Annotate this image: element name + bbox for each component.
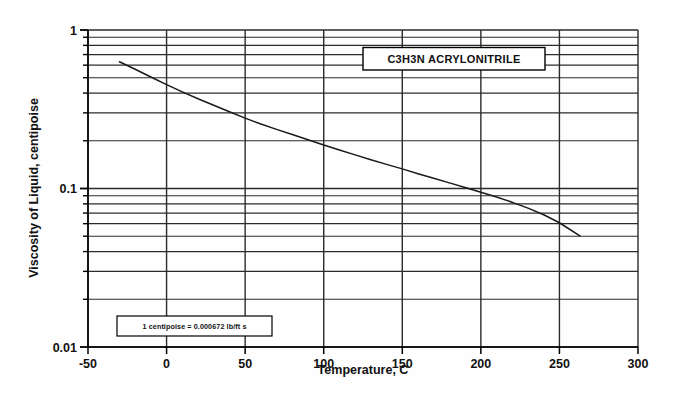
y-tick-label-0.1: 0.1 [60, 182, 77, 196]
note-box: 1 centipoise = 0.000672 lb/ft s [117, 316, 272, 336]
x-tick-label-50: 50 [238, 357, 252, 371]
x-tick-label--50: -50 [79, 357, 97, 371]
title-box: C3H3N ACRYLONITRILE [363, 48, 545, 71]
title-box-label: C3H3N ACRYLONITRILE [387, 53, 520, 65]
x-tick-label-300: 300 [628, 357, 649, 371]
note-box-label: 1 centipoise = 0.000672 lb/ft s [143, 322, 247, 331]
x-tick-label-0: 0 [163, 357, 170, 371]
chart-page: -50050100150200250300 10.10.01 Temperatu… [0, 0, 687, 404]
x-tick-label-200: 200 [470, 357, 491, 371]
y-tick-label-1: 1 [70, 24, 77, 38]
viscosity-temperature-chart: -50050100150200250300 10.10.01 Temperatu… [0, 0, 687, 404]
x-axis-title: Temperature, C [318, 363, 409, 377]
y-axis-title: Viscosity of Liquid, centipoise [27, 98, 41, 278]
y-tick-label-0.01: 0.01 [53, 341, 77, 355]
chart-background [0, 0, 687, 404]
x-tick-label-250: 250 [549, 357, 570, 371]
